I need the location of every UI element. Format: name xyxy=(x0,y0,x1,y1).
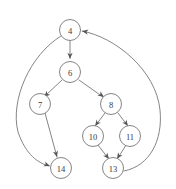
graph-node-8[interactable]: 8 xyxy=(101,94,122,115)
node-circle-11[interactable] xyxy=(120,126,141,147)
node-circle-14[interactable] xyxy=(51,158,72,179)
graph-node-14[interactable]: 14 xyxy=(51,158,72,179)
node-circle-6[interactable] xyxy=(60,62,81,83)
directed-graph-svg: 467810111314 xyxy=(0,0,176,189)
arrowhead-4-14 xyxy=(43,161,51,168)
graph-node-4[interactable]: 4 xyxy=(60,20,81,41)
graph-node-10[interactable]: 10 xyxy=(83,126,104,147)
graph-canvas: 467810111314 xyxy=(0,0,176,189)
graph-node-7[interactable]: 7 xyxy=(30,94,51,115)
edge-7-to-14 xyxy=(45,113,57,157)
graph-node-6[interactable]: 6 xyxy=(60,62,81,83)
graph-node-11[interactable]: 11 xyxy=(120,126,141,147)
edge-6-to-8 xyxy=(79,80,103,97)
graph-node-13[interactable]: 13 xyxy=(103,158,124,179)
node-circle-10[interactable] xyxy=(83,126,104,147)
node-circle-13[interactable] xyxy=(103,158,124,179)
node-circle-4[interactable] xyxy=(60,20,81,41)
arrowhead-7-14 xyxy=(53,150,60,157)
node-circle-8[interactable] xyxy=(101,94,122,115)
node-circle-7[interactable] xyxy=(30,94,51,115)
node-layer: 467810111314 xyxy=(30,20,141,179)
edge-6-to-7 xyxy=(45,80,62,96)
